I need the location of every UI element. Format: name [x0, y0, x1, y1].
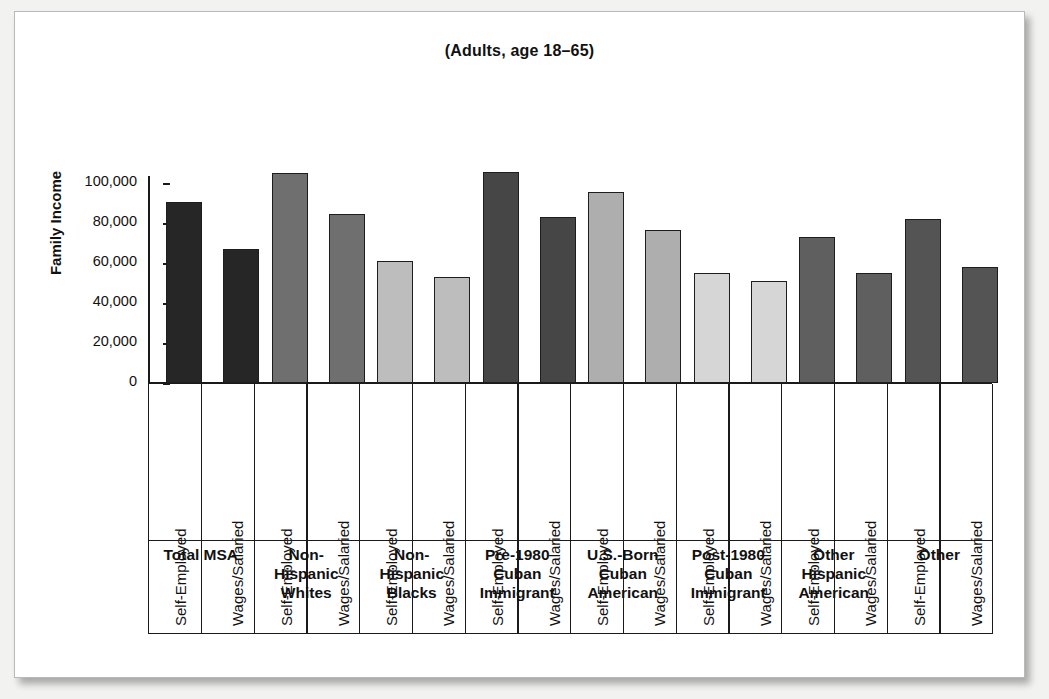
group-divider: [254, 540, 255, 634]
y-axis-tick-labels: 020,00040,00060,00080,000100,000: [37, 12, 137, 412]
group-label-line: Immigrant: [676, 584, 782, 603]
y-tick-label: 0: [45, 374, 137, 389]
group-label-row: Total MSANon-HispanicWhitesNon-HispanicB…: [148, 540, 992, 634]
group-divider: [570, 540, 571, 634]
group-label-line: Whites: [254, 584, 360, 603]
bar: [856, 273, 892, 383]
y-tick-label: 100,000: [45, 174, 137, 189]
bar: [483, 172, 519, 383]
group-label: Non-HispanicWhites: [254, 546, 360, 603]
chart-title: (Adults, age 18–65): [15, 42, 1024, 60]
group-label: Pre-1980CubanImmigrant: [465, 546, 571, 603]
y-tick-label: 80,000: [45, 214, 137, 229]
group-label-line: Other: [887, 546, 993, 565]
group-label: Post-1980CubanImmigrant: [676, 546, 782, 603]
group-label: Non-HispanicBlacks: [359, 546, 465, 603]
y-tick-label: 60,000: [45, 254, 137, 269]
bar: [329, 214, 365, 383]
bar: [962, 267, 998, 383]
y-tick-label: 40,000: [45, 294, 137, 309]
group-label-line: Pre-1980: [465, 546, 571, 565]
bar: [645, 230, 681, 383]
group-label-line: Hispanic: [781, 565, 887, 584]
group-divider: [992, 540, 993, 634]
group-divider: [887, 540, 888, 634]
group-divider: [359, 540, 360, 634]
bar-chart-figure: (Adults, age 18–65) Family Income 020,00…: [15, 12, 1024, 677]
bar: [223, 249, 259, 383]
group-label-line: Hispanic: [254, 565, 360, 584]
bar: [751, 281, 787, 383]
bar: [694, 273, 730, 383]
bar: [540, 217, 576, 383]
group-label-line: Post-1980: [676, 546, 782, 565]
group-label: Other: [887, 546, 993, 565]
group-label-line: Cuban: [676, 565, 782, 584]
group-divider: [465, 540, 466, 634]
plot-area: [150, 162, 992, 383]
scanned-page: (Adults, age 18–65) Family Income 020,00…: [14, 11, 1025, 678]
group-label-line: Non-: [254, 546, 360, 565]
group-divider: [676, 540, 677, 634]
bar: [434, 277, 470, 383]
group-label: U.S.-BornCubanAmerican: [570, 546, 676, 603]
group-label: Total MSA: [148, 546, 254, 565]
group-divider: [148, 540, 149, 634]
bar: [905, 219, 941, 383]
group-label-line: U.S.-Born: [570, 546, 676, 565]
group-label-line: Immigrant: [465, 584, 571, 603]
bar: [377, 261, 413, 383]
y-tick-label: 20,000: [45, 334, 137, 349]
group-label-line: American: [570, 584, 676, 603]
bar: [799, 237, 835, 383]
group-label-line: Blacks: [359, 584, 465, 603]
bar: [272, 173, 308, 383]
bar: [166, 202, 202, 383]
group-label-line: Hispanic: [359, 565, 465, 584]
group-divider: [781, 540, 782, 634]
group-label-line: Cuban: [465, 565, 571, 584]
group-label-line: Other: [781, 546, 887, 565]
group-label: OtherHispanicAmerican: [781, 546, 887, 603]
group-label-line: American: [781, 584, 887, 603]
group-label-line: Total MSA: [148, 546, 254, 565]
bar: [588, 192, 624, 383]
figure-page: (Adults, age 18–65) Family Income 020,00…: [0, 0, 1049, 699]
group-label-line: Cuban: [570, 565, 676, 584]
group-label-line: Non-: [359, 546, 465, 565]
